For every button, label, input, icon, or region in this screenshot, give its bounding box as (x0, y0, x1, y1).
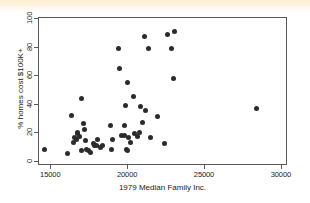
x-tick-mark (204, 165, 205, 169)
y-tick-mark (34, 161, 38, 162)
y-tick-label: 80 (25, 41, 34, 53)
data-point (77, 134, 82, 139)
data-point (123, 103, 128, 108)
data-point (140, 120, 145, 125)
x-tick-label: 15000 (40, 170, 60, 179)
x-tick-mark (50, 165, 51, 169)
y-tick-label: 20 (25, 126, 34, 138)
data-point (95, 137, 100, 142)
data-point (131, 94, 136, 99)
data-point (117, 66, 122, 71)
data-point (108, 123, 113, 128)
data-point (165, 32, 170, 37)
y-tick-mark (34, 104, 38, 105)
data-point (88, 150, 93, 155)
data-point (65, 151, 70, 156)
data-point (79, 96, 84, 101)
data-point (69, 113, 74, 118)
x-tick-label: 30000 (271, 170, 291, 179)
y-tick-mark (34, 75, 38, 76)
y-tick-label: 40 (25, 98, 34, 110)
data-point (110, 137, 115, 142)
data-point (100, 143, 105, 148)
data-point (171, 76, 176, 81)
data-point (162, 141, 167, 146)
data-point (128, 140, 133, 145)
x-tick-label: 25000 (194, 170, 214, 179)
data-point (254, 106, 259, 111)
y-tick-label: 60 (25, 69, 34, 81)
y-tick-mark (34, 18, 38, 19)
data-point (116, 46, 121, 51)
x-tick-label: 20000 (117, 170, 137, 179)
data-point (137, 130, 142, 135)
data-point (125, 80, 130, 85)
scatter-plot-screenshot: 15000200002500030000 020406080100 1979 M… (0, 0, 310, 203)
y-tick-label: 100 (25, 12, 34, 24)
data-point (122, 123, 127, 128)
y-tick-mark (34, 132, 38, 133)
x-axis-label: 1979 Median Family Inc. (38, 183, 287, 192)
x-tick-mark (281, 165, 282, 169)
data-point (42, 147, 47, 152)
y-axis-label: % homes cost $100K+ (16, 14, 25, 164)
x-tick-mark (127, 165, 128, 169)
y-tick-label: 0 (25, 155, 34, 167)
data-point (146, 46, 151, 51)
plot-area: 15000200002500030000 020406080100 1979 M… (0, 0, 310, 203)
y-tick-mark (34, 47, 38, 48)
